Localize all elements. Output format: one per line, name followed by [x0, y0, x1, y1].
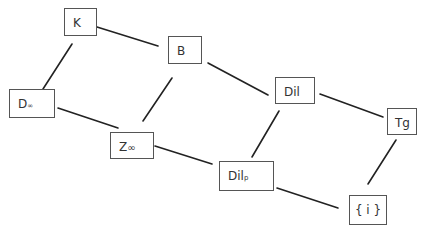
node-label: { i } — [350, 204, 386, 216]
node-label: D∞ — [18, 98, 33, 110]
node-b: B — [168, 36, 202, 64]
node-label: Dilp — [228, 170, 248, 182]
edge-dil-dilp — [252, 111, 279, 157]
edge-tg-i — [368, 140, 396, 184]
node-label: Z∞ — [119, 141, 136, 153]
node-identity-set: { i } — [349, 195, 387, 225]
node-dil-p: Dilp — [219, 161, 274, 191]
edge-dil-tg — [320, 94, 383, 117]
node-label: K — [73, 17, 81, 29]
node-k: K — [64, 8, 97, 36]
edge-k-dinf — [43, 44, 72, 89]
node-label: Tg — [395, 117, 410, 129]
node-label: Dil — [284, 86, 300, 98]
edge-b-zinf — [143, 78, 172, 121]
edge-zinf-dilp — [155, 146, 212, 164]
infinity-subscript: ∞ — [27, 102, 33, 110]
edge-k-b — [97, 27, 158, 46]
node-dil: Dil — [275, 77, 315, 104]
p-subscript: p — [244, 174, 248, 182]
edge-dilp-i — [277, 188, 338, 208]
node-label: B — [177, 45, 185, 57]
node-tg: Tg — [387, 108, 417, 135]
infinity-suffix: ∞ — [127, 142, 135, 153]
node-z-infinity: Z∞ — [110, 132, 154, 159]
edge-b-dil — [208, 63, 268, 95]
edge-dinf-zinf — [58, 108, 118, 128]
node-d-infinity: D∞ — [9, 89, 55, 118]
